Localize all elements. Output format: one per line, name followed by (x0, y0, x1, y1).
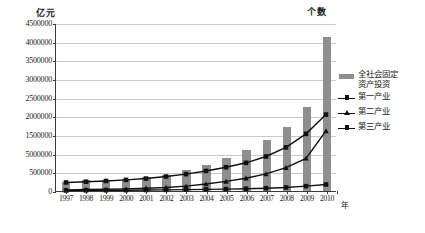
legend-line-square-icon (338, 93, 355, 104)
x-tick-label: 2004 (200, 195, 214, 203)
legend-item[interactable]: 第一产业 (338, 92, 424, 104)
data-point-marker (204, 169, 209, 174)
legend-bar-swatch-icon (338, 71, 355, 82)
data-point-marker (184, 172, 189, 177)
data-point-marker (324, 182, 329, 187)
legend-item-label: 第三产业 (358, 122, 390, 132)
y-tick-label: 4000000 (25, 39, 52, 47)
data-point-marker (284, 185, 289, 190)
y-tick-label: 1500000 (25, 132, 52, 140)
chart-figure: 亿元 个数 4500000400000035000003000000250000… (0, 0, 425, 233)
x-tick-label: 2006 (240, 195, 254, 203)
y-tick-label: 3000000 (25, 76, 52, 84)
x-tick-label: 2003 (179, 195, 193, 203)
x-tick-label: 2000 (119, 195, 133, 203)
swatch-icon (339, 74, 354, 79)
y-tick-mark (53, 192, 56, 193)
legend-item[interactable]: 第二产业 (338, 107, 424, 119)
legend-item[interactable]: 第三产业 (338, 122, 424, 134)
x-tick-label: 1998 (79, 195, 93, 203)
y-tick-label: 3500000 (25, 57, 52, 65)
x-tick-label: 2010 (320, 195, 334, 203)
data-point-marker (324, 112, 329, 117)
legend-item-label: 第二产业 (358, 107, 390, 117)
legend-line-square-icon (338, 123, 355, 134)
square-marker-icon (345, 125, 350, 130)
x-tick-label: 2008 (280, 195, 294, 203)
y-axis-unit-label: 亿元 (36, 6, 55, 19)
x-tick-label: 2005 (220, 195, 234, 203)
x-tick-label: 2007 (260, 195, 274, 203)
legend-item[interactable]: 全社会固定 资产投资 (338, 70, 424, 89)
data-point-marker (144, 176, 149, 181)
legend-line-triangle-icon (338, 108, 355, 119)
data-point-marker (104, 179, 109, 184)
data-point-marker (64, 180, 69, 185)
data-point-marker (304, 184, 309, 189)
x-tick-label: 2002 (159, 195, 173, 203)
data-point-marker (224, 165, 229, 170)
square-marker-icon (345, 95, 350, 100)
data-point-marker (284, 145, 289, 150)
y2-axis-unit-label: 个数 (307, 5, 326, 18)
x-tick-label: 1999 (99, 195, 113, 203)
y-tick-label: 2000000 (25, 113, 52, 121)
y-tick-label: 0 (48, 188, 52, 196)
data-point-marker (304, 132, 309, 137)
y-tick-label: 2500000 (25, 95, 52, 103)
data-point-marker (244, 161, 249, 166)
x-tick-label: 2001 (139, 195, 153, 203)
y-tick-label: 5000000 (25, 151, 52, 159)
y-tick-label: 500000 (29, 169, 52, 177)
x-tick-label: 1997 (59, 195, 73, 203)
data-point-marker (323, 128, 328, 133)
data-point-marker (264, 154, 269, 159)
x-axis-caption: 年 (341, 199, 349, 210)
legend-item-label: 全社会固定 资产投资 (358, 70, 398, 89)
chart-legend: 全社会固定 资产投资第一产业第二产业第三产业 (338, 70, 424, 137)
legend-item-label: 第一产业 (358, 92, 390, 102)
x-tick-mark (337, 191, 338, 194)
triangle-marker-icon (344, 110, 350, 115)
y-tick-label: 4500000 (25, 20, 52, 28)
plot-area: 4500000400000035000003000000250000020000… (55, 24, 336, 192)
data-point-marker (264, 186, 269, 191)
data-point-marker (164, 174, 169, 179)
data-point-marker (84, 179, 89, 184)
x-tick-label: 2009 (300, 195, 314, 203)
line-series-group (56, 24, 336, 191)
data-point-marker (124, 178, 129, 183)
